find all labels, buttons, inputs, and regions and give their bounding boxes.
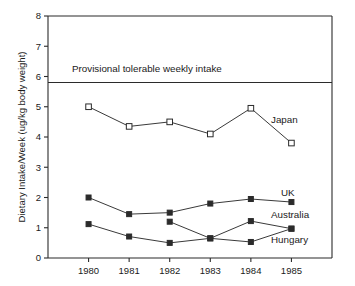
data-point-hungary-1985: [289, 226, 294, 231]
y-tick-label-4: 4: [36, 131, 41, 142]
y-tick-label-6: 6: [36, 71, 41, 82]
reference-line-group: Provisional tolerable weekly intake: [48, 63, 332, 83]
y-tick-label-5: 5: [36, 101, 41, 112]
data-point-uk-1981: [127, 212, 132, 217]
y-tick-label-7: 7: [36, 41, 41, 52]
y-axis-title: Dietary Intake/Week (ug/kg body weight): [16, 52, 27, 223]
series-label-uk: UK: [281, 187, 295, 198]
series-uk: UK: [86, 187, 295, 217]
data-point-japan-1983: [207, 131, 213, 137]
dietary-intake-line-chart: 0 1 2 3 4 5 6 7 8 1980 1981 1982 1983 19…: [0, 0, 355, 286]
series-japan-line: [89, 107, 292, 143]
data-point-hungary-1984: [248, 239, 253, 244]
data-point-hungary-1983: [208, 236, 213, 241]
data-point-uk-1985: [289, 200, 294, 205]
series-label-hungary: Hungary: [271, 234, 308, 245]
y-tick-label-1: 1: [36, 222, 41, 233]
data-point-hungary-1980: [86, 222, 91, 227]
x-tick-label-1983: 1983: [200, 265, 221, 276]
data-point-hungary-1982: [167, 240, 172, 245]
series-label-japan: Japan: [271, 114, 298, 125]
y-tick-label-3: 3: [36, 162, 41, 173]
x-tick-label-1981: 1981: [119, 265, 140, 276]
x-tick-label-1984: 1984: [240, 265, 261, 276]
data-point-japan-1980: [86, 104, 92, 110]
series-label-australia: Australia: [271, 209, 310, 220]
data-point-japan-1984: [248, 105, 254, 111]
series-japan: Japan: [86, 104, 298, 146]
y-axis-tick-labels: 0 1 2 3 4 5 6 7 8: [36, 10, 41, 263]
data-point-uk-1984: [248, 197, 253, 202]
series-uk-line: [89, 198, 292, 215]
provisional-tolerable-weekly-intake-label: Provisional tolerable weekly intake: [72, 63, 222, 74]
data-point-australia-1982: [167, 219, 172, 224]
data-point-uk-1980: [86, 195, 91, 200]
data-point-japan-1985: [289, 140, 295, 146]
x-tick-label-1980: 1980: [78, 265, 99, 276]
x-tick-label-1985: 1985: [281, 265, 302, 276]
y-tick-label-0: 0: [36, 252, 41, 263]
x-axis-tick-labels: 1980 1981 1982 1983 1984 1985: [78, 265, 302, 276]
y-tick-label-2: 2: [36, 192, 41, 203]
data-point-hungary-1981: [127, 234, 132, 239]
chart-container: 0 1 2 3 4 5 6 7 8 1980 1981 1982 1983 19…: [0, 0, 355, 286]
data-point-uk-1983: [208, 201, 213, 206]
x-tick-label-1982: 1982: [159, 265, 180, 276]
data-point-australia-1984: [248, 219, 253, 224]
data-point-japan-1982: [167, 119, 173, 125]
data-point-uk-1982: [167, 210, 172, 215]
series-hungary-line: [89, 224, 292, 243]
y-tick-label-8: 8: [36, 10, 41, 21]
y-axis-ticks: [44, 16, 48, 258]
x-axis-ticks: [89, 258, 292, 262]
data-point-japan-1981: [126, 124, 132, 130]
